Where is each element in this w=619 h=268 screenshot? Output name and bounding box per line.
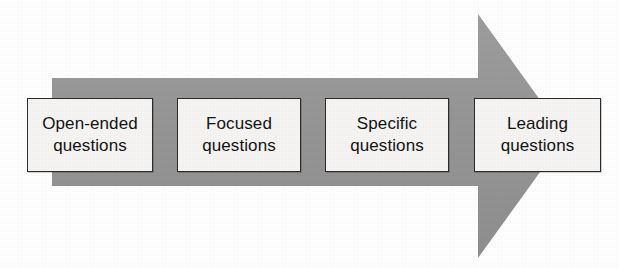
stage-box-specific[interactable]: Specific questions xyxy=(325,98,449,172)
stage-box-focused[interactable]: Focused questions xyxy=(177,98,301,172)
stage-label-line2: questions xyxy=(350,135,424,157)
stage-box-leading[interactable]: Leading questions xyxy=(474,98,601,172)
stage-label-line1: Leading xyxy=(507,113,568,135)
diagram-canvas: Open-ended questions Focused questions S… xyxy=(0,0,619,268)
stage-box-open-ended[interactable]: Open-ended questions xyxy=(27,98,153,172)
stage-label-line2: questions xyxy=(202,135,276,157)
stage-label-line2: questions xyxy=(501,135,575,157)
stage-label-line2: questions xyxy=(53,135,127,157)
stage-label-line1: Open-ended xyxy=(42,113,138,135)
stage-label-line1: Specific xyxy=(357,113,417,135)
stage-label-line1: Focused xyxy=(206,113,272,135)
